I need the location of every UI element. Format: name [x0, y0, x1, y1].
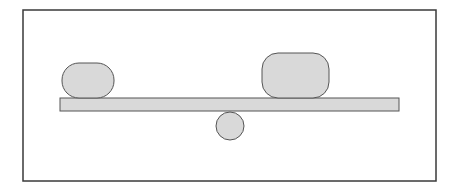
left-weight-block — [62, 63, 114, 98]
seesaw-diagram — [0, 0, 459, 191]
seesaw-beam — [60, 98, 399, 111]
right-weight-block — [262, 53, 329, 98]
fulcrum-circle — [216, 112, 244, 140]
